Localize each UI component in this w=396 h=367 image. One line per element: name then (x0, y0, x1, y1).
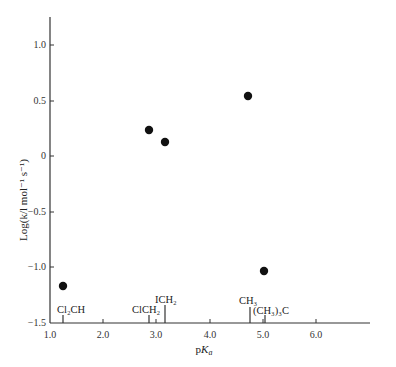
x-tick-label: 1.0 (44, 329, 57, 340)
y-tick-label: 1.0 (34, 39, 47, 50)
scatter-chart: 1.0 0.5 0 −0.5 −1.0 −1.5 1.0 2.0 3.0 4.0… (0, 0, 396, 367)
y-tick-label: −1.0 (28, 261, 46, 272)
x-tick-label: 3.0 (150, 329, 163, 340)
annotation-tbu: (CH₃)₃C (253, 305, 289, 317)
x-ticks: 1.0 2.0 3.0 4.0 5.0 6.0 (44, 319, 323, 340)
pka-markers (63, 305, 265, 323)
data-point (161, 138, 169, 146)
y-tick-label: 0.5 (34, 95, 47, 106)
data-points (59, 92, 268, 290)
x-tick-label: 5.0 (257, 329, 270, 340)
y-tick-label: −0.5 (28, 206, 46, 217)
x-axis-title: pKa (196, 343, 213, 357)
annotation-clch2: ClCH₂ (132, 304, 161, 315)
data-point (260, 267, 268, 275)
data-point (244, 92, 252, 100)
y-tick-label: −1.5 (28, 317, 46, 328)
y-axis-title: Log(k/l mol⁻¹ s⁻¹) (17, 159, 30, 241)
data-point (59, 282, 67, 290)
annotation-ich2: ICH₂ (155, 294, 177, 305)
x-tick-label: 6.0 (310, 329, 323, 340)
y-tick-label: 0 (41, 150, 46, 161)
annotation-cl2ch: Cl₂CH (57, 304, 86, 315)
x-tick-label: 2.0 (97, 329, 110, 340)
data-point (145, 126, 153, 134)
x-tick-label: 4.0 (204, 329, 217, 340)
